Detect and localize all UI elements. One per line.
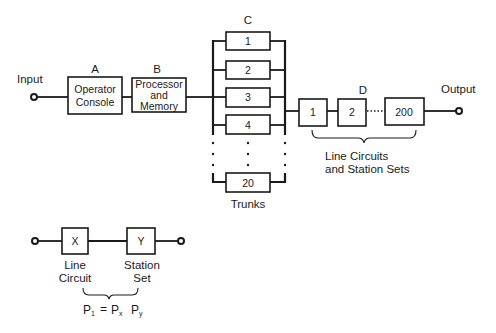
input-terminal-icon [31,94,37,100]
svg-text:Px: Px [111,303,123,317]
block-b-letter: B [153,63,161,75]
reliability-block-diagram: Input A Operator Console B Processor and… [0,0,496,333]
svg-text:Py: Py [131,303,143,318]
box-x-label: X [71,235,78,247]
trunk-20-label: 20 [242,177,254,189]
block-a-operator-console: A Operator Console [68,63,122,114]
block-d-letter: D [359,84,367,96]
trunk-4-label: 4 [245,119,251,131]
output-terminal-icon [456,108,462,114]
block-c-letter: C [244,14,252,26]
trunk-2-label: 2 [245,64,251,76]
line-unit-2-label: 2 [349,106,355,118]
block-b-line3: Memory [140,100,179,112]
trunk-3-label: 3 [245,91,251,103]
block-b-processor-memory: B Processor and Memory [132,63,186,112]
output-label: Output [441,83,476,95]
line-station-subsystem: X Y Line Circuit Station Set P1 = Px Py [32,228,184,318]
line-circuits-caption-2: and Station Sets [325,163,410,175]
x-caption-1: Line [64,259,86,271]
block-a-letter: A [91,63,99,75]
block-c-trunks: C 1 2 3 4 [212,14,286,210]
trunk-1-label: 1 [245,35,251,47]
trunks-caption: Trunks [231,198,266,210]
line-circuits-brace [312,130,416,143]
x-caption-2: Circuit [59,272,92,284]
main-chain: Input A Operator Console B Processor and… [17,14,476,210]
sub-output-terminal-icon [178,238,184,244]
sub-input-terminal-icon [32,238,38,244]
svg-text:=: = [100,302,107,316]
input-label: Input [17,73,43,85]
line-circuits-caption-1: Line Circuits [325,150,389,162]
y-caption-1: Station [124,259,160,271]
block-d-line-circuits: D 1 2 200 Line Circuits and Station Sets [299,84,424,175]
svg-text:P1: P1 [83,303,95,317]
reliability-formula: P1 = Px Py [83,302,143,318]
line-unit-1-label: 1 [310,106,316,118]
trunk-ellipsis-dots [212,142,286,166]
y-caption-2: Set [133,272,151,284]
block-a-line1: Operator [74,83,116,95]
subsystem-brace [83,288,138,299]
block-a-line2: Console [76,96,115,108]
box-y-label: Y [137,235,144,247]
line-unit-200-label: 200 [395,106,413,118]
